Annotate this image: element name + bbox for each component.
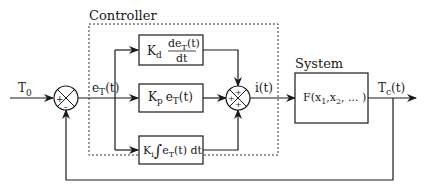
svg-text:KpeT(t): KpeT(t) <box>148 90 193 106</box>
summing-junction-pid: + + + <box>226 86 250 110</box>
svg-text:+: + <box>228 94 235 103</box>
control-label: i(t) <box>255 81 273 95</box>
svg-text:+: + <box>235 100 242 109</box>
svg-text:F(x1,x2, ... ): F(x1,x2, ... ) <box>303 91 366 106</box>
system-label: System <box>295 56 343 71</box>
system-block: F(x1,x2, ... ) <box>295 73 368 123</box>
summing-junction-error: + - <box>54 86 78 112</box>
controller-label: Controller <box>89 8 157 23</box>
output-label: Tc(t) <box>378 81 405 97</box>
integral-block: Ki∫eT(t) dt <box>139 136 203 164</box>
derivative-block: Kd deT(t) dt <box>139 35 203 65</box>
proportional-block: KpeT(t) <box>139 84 203 112</box>
svg-text:dt: dt <box>176 52 188 65</box>
svg-text:+: + <box>235 88 242 97</box>
input-label: T0 <box>18 81 32 98</box>
svg-text:+: + <box>56 94 64 104</box>
pid-diagram: Controller T0 + - eT(t) Kd deT(t) dt Kpe… <box>0 0 424 191</box>
